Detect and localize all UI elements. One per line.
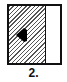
diagram-panel [7, 4, 62, 65]
figure-label: 2. [0, 66, 67, 80]
arrow-left-icon [16, 27, 28, 43]
